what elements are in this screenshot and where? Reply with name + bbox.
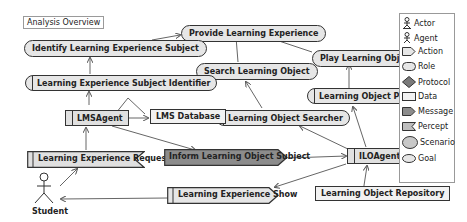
diagram-title: Analysis Overview [23,16,104,29]
action-learning-experience-show[interactable]: Learning Experience Show [167,187,279,204]
percept-label: Learning Experience Request [38,154,170,163]
legend-item-scenario: Scenario [402,136,455,149]
agent-icon [66,111,73,125]
goal-label: Search Learning Object [204,67,310,76]
action-label: Learning Experience Show [178,190,297,199]
legend-item-role: Role [402,62,435,71]
legend-label: Role [418,62,435,71]
goal-label: Identify Learning Experience Subject [32,44,199,53]
role-learning-experience-subject-identifier[interactable]: Learning Experience Subject Identifier [25,75,217,91]
role-learning-object-searcher[interactable]: Learning Object Searcher [216,110,350,126]
agent-label: ILOAgent [359,152,400,161]
actor-student-label: Student [32,207,68,216]
data-label: LMS Database [156,112,220,121]
legend-label: Action [418,47,443,56]
goal-provide-learning-experience[interactable]: Provide Learning Experience [181,25,326,42]
legend-label: Message [418,107,453,116]
legend-label: Actor [414,19,435,28]
diagram-canvas: Analysis Overview Provide Learning Exper… [0,0,467,222]
agent-iloagent[interactable]: ILOAgent [347,148,406,164]
message-inform-learning-object-subject[interactable]: Inform Learning Object Subject [164,149,288,166]
role-label: Learning Experience Subject Identifier [37,79,210,88]
legend-label: Data [418,92,437,101]
data-lms-database[interactable]: LMS Database [150,109,226,124]
role-label: Learning Object Searcher [228,114,343,123]
legend-item-agent: Agent [402,32,438,44]
role-icon [308,89,315,103]
legend-item-percept: Percept [402,122,448,131]
data-icon [402,92,416,101]
legend-item-action: Action [402,47,443,56]
legend-item-goal: Goal [402,154,436,163]
legend-item-protocol: Protocol [402,76,450,88]
legend-label: Scenario [420,138,455,147]
legend: Actor Agent Action Role Protocol Data Me… [399,13,455,183]
percept-icon [402,122,416,131]
legend-item-message: Message [402,107,453,116]
goal-label: Provide Learning Experience [189,29,318,38]
message-icon [402,107,416,116]
legend-label: Agent [414,34,438,43]
agent-icon [402,32,412,44]
agent-lmsagent[interactable]: LMSAgent [65,110,129,126]
goal-identify-learning-experience-subject[interactable]: Identify Learning Experience Subject [24,40,207,57]
legend-item-data: Data [402,92,437,101]
actor-icon [402,17,412,29]
agent-icon [348,149,355,163]
role-icon [26,76,33,90]
data-label: Learning Object Repository [321,189,444,198]
legend-label: Percept [418,122,448,131]
goal-icon [402,154,416,163]
percept-learning-experience-request[interactable]: Learning Experience Request [27,151,145,168]
legend-label: Protocol [418,78,450,87]
legend-item-actor: Actor [402,17,435,29]
actor-icon[interactable] [30,172,60,206]
role-icon [402,62,416,71]
agent-label: LMSAgent [77,114,123,123]
scenario-icon [402,136,418,149]
legend-label: Goal [418,154,436,163]
protocol-icon [402,76,416,88]
action-icon [402,47,416,56]
data-learning-object-repository[interactable]: Learning Object Repository [315,186,450,201]
message-label: Inform Learning Object Subject [169,152,310,161]
